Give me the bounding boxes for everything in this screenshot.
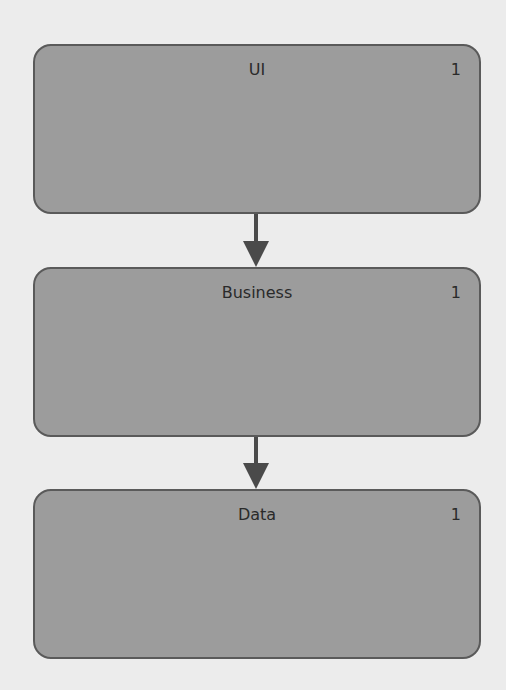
arrow-down-icon <box>243 437 269 489</box>
layer-title: UI <box>35 60 479 80</box>
layer-count-badge: 1 <box>451 505 461 525</box>
layer-count-badge: 1 <box>451 283 461 303</box>
layer-title: Business <box>35 283 479 303</box>
arrow-shaft <box>254 214 258 244</box>
arrow-shaft <box>254 437 258 466</box>
arrow-head <box>243 463 269 489</box>
arrow-down-icon <box>243 214 269 267</box>
arrow-head <box>243 241 269 267</box>
layer-box-data[interactable]: Data 1 <box>33 489 481 659</box>
layer-count-badge: 1 <box>451 60 461 80</box>
layer-box-business[interactable]: Business 1 <box>33 267 481 437</box>
layer-box-ui[interactable]: UI 1 <box>33 44 481 214</box>
layer-title: Data <box>35 505 479 525</box>
